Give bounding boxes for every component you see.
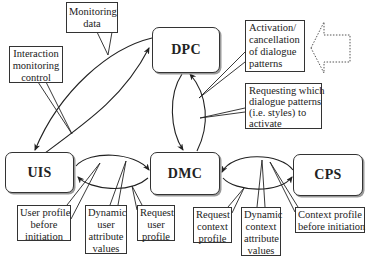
dotted-left-arrow-icon: [311, 22, 350, 73]
dmc-to-dpc-arc: [190, 74, 205, 151]
callout-line: monitoring: [12, 60, 60, 72]
callout-monitoring-data: Monitoring data: [66, 2, 118, 33]
dmc-node: DMC: [150, 152, 220, 195]
callout-line: user: [88, 219, 124, 231]
callout-context-profile-before-initiation: Context profile before initiation: [295, 207, 365, 233]
uis-label: UIS: [27, 165, 51, 181]
callout-line: profile: [140, 231, 172, 243]
callout-requesting-patterns: Requesting which dialogue patterns (i.e.…: [245, 83, 322, 129]
callout-line: attribute: [244, 233, 278, 245]
callout-line: dialogue patterns: [249, 96, 319, 107]
callout-line: Activation/: [249, 22, 302, 34]
callout-line: values: [88, 243, 124, 255]
callout-interaction-monitoring-control: Interaction monitoring control: [9, 46, 63, 83]
dpc-to-dmc-arc: [172, 74, 183, 150]
cps-label: CPS: [314, 167, 341, 183]
callout-line: Dynamic: [244, 209, 278, 221]
callout-line: Dynamic: [88, 207, 124, 219]
uis-node: UIS: [5, 152, 74, 193]
callout-line: before: [20, 219, 68, 231]
callout-line: Requesting which: [249, 85, 319, 96]
callout-line: initiation: [20, 231, 68, 243]
callout-line: of dialogue: [249, 46, 302, 58]
callout-user-profile-before-initiation: User profile before initiation: [17, 205, 71, 241]
callout-line: attribute: [88, 231, 124, 243]
callout-line: Monitoring: [69, 6, 115, 18]
callout-line: context: [244, 221, 278, 233]
dpc-label: DPC: [171, 42, 201, 58]
callout-dynamic-context-attribute-values: Dynamic context attribute values: [241, 207, 281, 256]
callout-line: Request: [196, 209, 229, 221]
dpc-node: DPC: [152, 27, 220, 73]
callout-request-user-profile: Request user profile: [137, 205, 175, 241]
dmc-to-cps-arc: [223, 177, 292, 189]
dmc-to-uis-arc: [78, 177, 148, 188]
callout-line: (i.e. styles) to: [249, 107, 319, 118]
callout-activation-cancellation: Activation/ cancellation of dialogue pat…: [245, 20, 305, 72]
cps-to-dmc-arc: [222, 157, 293, 172]
callout-line: Context profile: [298, 209, 362, 221]
callout-line: User profile: [20, 207, 68, 219]
uis-to-dmc-arc: [76, 155, 149, 170]
callout-line: cancellation: [249, 34, 302, 46]
callout-line: context: [196, 221, 229, 233]
callout-request-context-profile: Request context profile: [193, 207, 232, 243]
callout-line: Request: [140, 207, 172, 219]
dmc-label: DMC: [168, 166, 202, 182]
callout-line: profile: [196, 233, 229, 245]
callout-line: patterns: [249, 58, 302, 70]
callout-line: values: [244, 245, 278, 257]
cps-node: CPS: [293, 154, 363, 196]
callout-line: control: [12, 72, 60, 84]
callout-line: Interaction: [12, 48, 60, 60]
callout-line: data: [69, 18, 115, 30]
callout-dynamic-user-attribute-values: Dynamic user attribute values: [85, 205, 127, 254]
callout-line: activate: [249, 118, 319, 129]
callout-line: user: [140, 219, 172, 231]
callout-line: before initiation: [298, 221, 362, 233]
